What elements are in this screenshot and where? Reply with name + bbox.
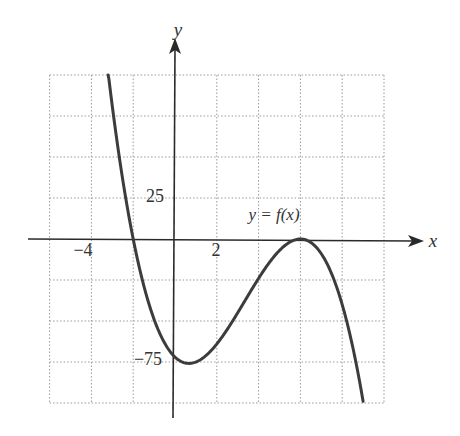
y-axis-label: y <box>172 19 183 40</box>
y-axis-line <box>173 48 175 418</box>
x-tick-label-2: 2 <box>212 240 221 260</box>
y-tick-label-25: 25 <box>146 186 164 206</box>
function-label: y = f(x) <box>246 205 299 224</box>
x-tick-label-neg4: −4 <box>73 240 92 260</box>
function-graph: y x −4 2 25 −75 y = f(x) <box>0 0 460 436</box>
x-axis-label: x <box>428 230 438 251</box>
y-tick-label-neg75: −75 <box>134 349 162 369</box>
